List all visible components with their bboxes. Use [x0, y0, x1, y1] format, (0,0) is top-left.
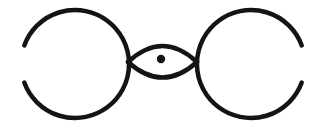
figure-svg: [0, 0, 329, 133]
pupil-dot-icon: [157, 55, 165, 63]
line-drawing-figure: [0, 0, 329, 133]
